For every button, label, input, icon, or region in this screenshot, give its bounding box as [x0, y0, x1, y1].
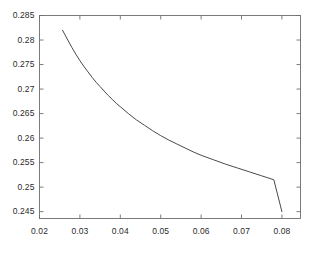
x-tick-label: 0.07	[222, 226, 262, 236]
chart-background	[0, 0, 316, 253]
y-tick-label: 0.255	[13, 157, 35, 167]
x-tick-label: 0.05	[141, 226, 181, 236]
x-tick-label: 0.08	[262, 226, 302, 236]
x-tick-label: 0.03	[60, 226, 100, 236]
y-tick-label: 0.275	[13, 59, 35, 69]
y-tick-label: 0.265	[13, 108, 35, 118]
x-tick-label: 0.04	[100, 226, 140, 236]
line-chart-plot	[0, 0, 316, 253]
chart-figure: 0.2450.250.2550.260.2650.270.2750.280.28…	[0, 0, 316, 253]
y-tick-label: 0.28	[18, 35, 35, 45]
y-tick-label: 0.245	[13, 206, 35, 216]
y-tick-label: 0.26	[18, 133, 35, 143]
x-tick-label: 0.06	[181, 226, 221, 236]
y-tick-label: 0.27	[18, 84, 35, 94]
x-tick-label: 0.02	[20, 226, 60, 236]
y-tick-label: 0.285	[13, 10, 35, 20]
y-tick-label: 0.25	[18, 182, 35, 192]
